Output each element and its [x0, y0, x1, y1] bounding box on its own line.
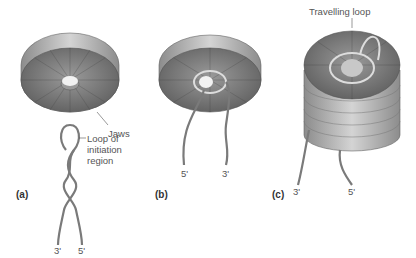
panel-c-end-left: 3' [293, 186, 300, 197]
panel-a-end-left: 3' [54, 245, 61, 256]
disc-c [298, 18, 400, 185]
twisted-dna-a [58, 125, 86, 245]
label-region: region [87, 155, 113, 166]
label-loop-of: Loop of [87, 133, 119, 144]
panel-c-end-right: 5' [348, 186, 355, 197]
label-travelling-loop: Travelling loop [309, 6, 370, 17]
panel-a-end-right: 5' [78, 245, 85, 256]
disc-b [159, 35, 261, 165]
panel-a-label: (a) [16, 189, 28, 200]
diagram: Jaws Loop of initiation region (a) 3' 5'… [0, 0, 416, 258]
panel-b-end-left: 5' [181, 168, 188, 179]
panel-b-end-right: 3' [222, 168, 229, 179]
panel-c-label: (c) [272, 189, 284, 200]
panel-b-label: (b) [155, 189, 168, 200]
disc-a [21, 33, 119, 125]
label-initiation: initiation [87, 144, 122, 155]
